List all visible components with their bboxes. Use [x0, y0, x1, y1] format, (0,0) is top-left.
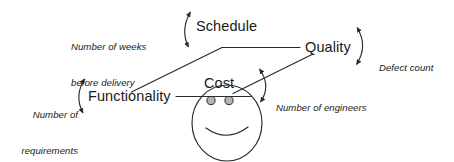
metric-label-requirements-line2: requirements	[0, 145, 78, 157]
metric-label-engineers-line1: Number of engineers	[276, 102, 384, 114]
left-eye-icon	[207, 96, 215, 104]
metric-label-defects-line1: Defect count	[379, 62, 453, 74]
schedule-arc-arrow	[185, 12, 191, 47]
metric-label-defects: Defect count	[379, 39, 453, 98]
quality-arc-arrow	[357, 28, 363, 65]
right-eye-icon	[225, 96, 233, 104]
metric-label-weeks-line1: Number of weeks	[71, 41, 163, 53]
metric-label-weeks: Number of weeks before delivery	[71, 18, 163, 112]
metric-label-requirements-line1: Number of	[0, 109, 78, 121]
metric-label-weeks-line2: before delivery	[71, 77, 163, 89]
node-label-schedule: Schedule	[196, 18, 257, 36]
cost-arc-arrow	[260, 69, 266, 102]
node-label-quality: Quality	[305, 39, 351, 57]
metric-label-engineers: Number of engineers	[276, 79, 384, 138]
metric-label-requirements: Number of requirements	[0, 86, 78, 162]
diagram-canvas: Schedule Quality Cost Functionality Numb…	[0, 0, 454, 162]
node-label-cost: Cost	[204, 75, 234, 93]
